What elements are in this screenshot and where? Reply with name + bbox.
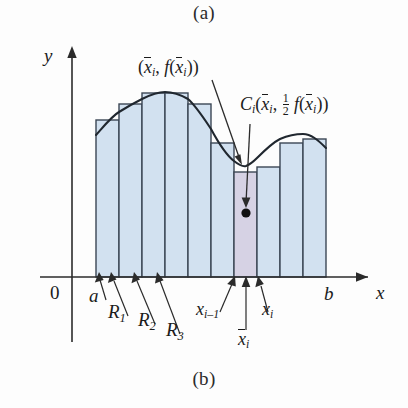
rectangle-i-highlighted — [234, 172, 257, 277]
annotation-top-point: (xi, f(xi)) — [138, 58, 199, 79]
x-axis-label: x — [376, 283, 384, 302]
centroid-dot — [241, 208, 250, 217]
riemann-sum-diagram — [0, 0, 408, 408]
y-axis-arrowhead — [67, 46, 76, 58]
rectangle-9 — [280, 143, 303, 277]
rectangle-3 — [142, 93, 165, 277]
xbar-glyph-4: x — [305, 95, 313, 113]
rectangle-2 — [119, 104, 142, 277]
figure-caption-b: (b) — [0, 368, 408, 390]
annotation-centroid: Ci(xi, 12 f(xi)) — [240, 92, 328, 117]
partition-label-x-bar-sub: i — [246, 337, 249, 351]
endpoint-b-label: b — [324, 284, 334, 303]
figure-container: (a) — [0, 0, 408, 408]
region-label-r3-sub: 3 — [178, 329, 184, 343]
xbar-glyph-1: x — [144, 58, 152, 76]
region-label-r3: R3 — [166, 320, 184, 342]
origin-label: 0 — [50, 283, 60, 302]
rectangles-group — [96, 93, 326, 277]
partition-label-x-curr-sub: i — [270, 307, 273, 321]
partition-label-x-bar: xi — [238, 330, 249, 351]
region-label-r1: R1 — [108, 302, 126, 324]
endpoint-a-label: a — [89, 286, 99, 305]
x-bar-glyph: x — [238, 330, 246, 348]
rectangle-10 — [303, 139, 326, 277]
y-axis-label: y — [44, 46, 52, 65]
arrow-xprev-line — [220, 284, 232, 312]
rectangle-5 — [188, 104, 211, 277]
region-label-r1-sub: 1 — [120, 311, 126, 325]
arrow-a-line — [100, 280, 106, 300]
rectangle-8 — [257, 167, 280, 277]
one-half-fraction: 12 — [283, 92, 289, 117]
partition-label-x-prev: xi–1 — [196, 300, 219, 321]
partition-label-x-curr: xi — [262, 300, 273, 321]
rectangle-6 — [211, 143, 234, 277]
xbar-glyph-2: x — [175, 58, 183, 76]
rectangle-1 — [96, 120, 119, 277]
region-label-r2-sub: 2 — [150, 319, 156, 333]
region-label-r2: R2 — [138, 310, 156, 332]
x-axis-arrowhead — [356, 272, 368, 282]
rectangle-4 — [165, 93, 188, 277]
xbar-glyph-3: x — [261, 95, 269, 113]
partition-label-x-prev-sub: i–1 — [204, 307, 219, 321]
